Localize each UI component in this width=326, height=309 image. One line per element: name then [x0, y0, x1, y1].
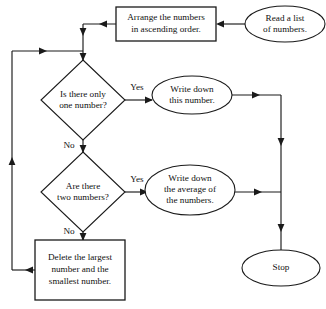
edge-label-no-one-number: No	[63, 140, 75, 150]
node-delete-extremes: Delete the largest number and the smalle…	[35, 240, 125, 300]
node-read-list-line-1: Read a list	[266, 13, 305, 23]
node-decision-two-numbers: Are there two numbers?	[41, 152, 125, 232]
node-arrange-numbers-line-1: Arrange the numbers	[127, 12, 205, 22]
node-write-average-line-1: Write down	[168, 173, 212, 183]
node-write-this-number-line-2: this number.	[169, 95, 214, 105]
node-read-list-line-2: of numbers.	[263, 24, 307, 34]
node-delete-extremes-line-1: Delete the largest	[48, 252, 113, 262]
node-stop-label: Stop	[273, 262, 290, 272]
node-stop: Stop	[242, 250, 320, 286]
edge-arrange-to-decision-one	[80, 21, 116, 61]
node-write-average-line-3: the numbers.	[166, 195, 213, 205]
edge-label-yes-two-numbers: Yes	[130, 174, 144, 184]
edge-write-this-to-stop	[232, 92, 284, 250]
node-decision-two-numbers-line-1: Are there	[66, 181, 100, 191]
node-write-average: Write down the average of the numbers.	[145, 165, 235, 215]
node-write-average-line-2: the average of	[164, 184, 217, 194]
node-arrange-numbers-line-2: in ascending order.	[131, 24, 201, 34]
node-read-list: Read a list of numbers.	[245, 6, 325, 42]
node-delete-extremes-line-3: smallest number.	[49, 276, 111, 286]
edge-label-no-two-numbers: No	[63, 226, 75, 236]
node-decision-one-number: Is there only one number?	[41, 60, 125, 140]
edge-decision-one-no	[80, 140, 87, 153]
node-delete-extremes-line-2: number and the	[51, 264, 108, 274]
node-write-this-number: Write down this number.	[152, 76, 232, 114]
flowchart-diagram: Read a list of numbers. Arrange the numb…	[0, 0, 326, 309]
node-decision-one-number-line-1: Is there only	[60, 89, 106, 99]
edge-write-average-to-stop	[235, 189, 281, 196]
edge-read-to-arrange	[216, 21, 245, 28]
node-write-this-number-line-1: Write down	[170, 84, 214, 94]
edge-decision-one-yes	[125, 97, 153, 104]
node-decision-two-numbers-line-2: two numbers?	[57, 192, 109, 202]
flowchart-canvas: Read a list of numbers. Arrange the numb…	[0, 0, 326, 309]
node-decision-one-number-line-2: one number?	[59, 100, 107, 110]
edge-label-yes-one-number: Yes	[130, 82, 144, 92]
node-arrange-numbers: Arrange the numbers in ascending order.	[116, 7, 216, 41]
